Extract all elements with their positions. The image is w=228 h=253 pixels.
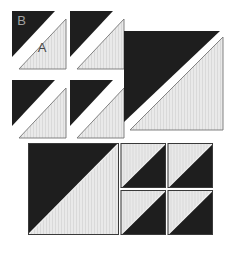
assembled-small-hst-2 <box>168 143 214 188</box>
fabric-label-b: B <box>17 13 26 28</box>
assembled-small-hst-3 <box>121 190 167 235</box>
assembled-large-hst <box>28 143 119 235</box>
quilt-assembly-diagram: BA <box>0 0 228 253</box>
assembled-small-hst-1 <box>121 143 167 188</box>
assembled-small-hst-4 <box>168 190 214 235</box>
fabric-label-a: A <box>38 40 47 55</box>
quilt-diagram-canvas: BA <box>0 0 228 253</box>
